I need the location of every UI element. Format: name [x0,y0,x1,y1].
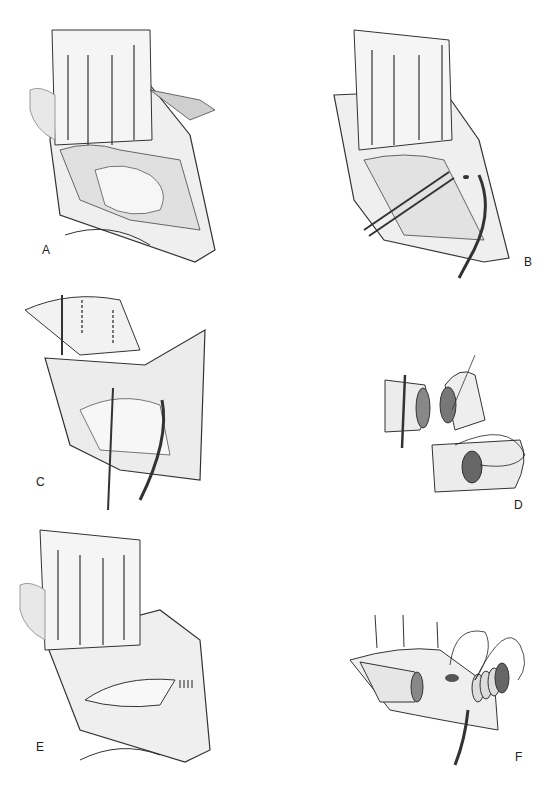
panel-label-a: A [42,243,50,257]
illustration-c [0,270,274,510]
panel-label-e: E [36,740,44,754]
panel-b: B [274,0,548,280]
panel-label-c: C [36,475,45,489]
illustration-d [360,340,548,520]
panel-label-b: B [524,255,532,269]
panel-a: A [0,0,274,280]
panel-f: F [330,570,548,787]
panel-e: E [0,500,274,787]
illustration-b [274,0,548,280]
panel-label-d: D [514,498,523,512]
panel-c: C [0,270,274,510]
illustration-a [0,0,274,280]
panel-d: D [360,340,548,520]
panel-label-f: F [515,750,522,764]
